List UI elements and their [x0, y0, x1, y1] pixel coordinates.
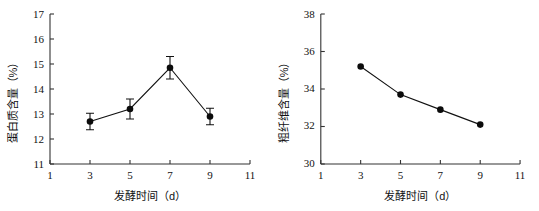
y-tick-label: 32 [304, 119, 315, 131]
y-tick-label: 17 [33, 8, 45, 20]
y-tick-label: 16 [33, 33, 45, 45]
x-axis-title-protein: 发酵时间（d） [114, 189, 186, 202]
x-axis-title-fiber: 发酵时间（d） [384, 189, 456, 202]
x-tick-label: 7 [167, 169, 173, 181]
x-tick-label: 11 [515, 169, 526, 181]
x-tick-label: 1 [47, 169, 53, 181]
y-tick-label: 13 [33, 108, 45, 120]
y-axis-title-fiber: 粗纤维含量（%） [277, 57, 290, 144]
y-tick-label: 34 [304, 82, 315, 94]
x-tick-label: 11 [245, 169, 256, 181]
figure-root: 蛋白质含量（%） 17 16 15 14 13 12 11 [0, 0, 539, 211]
data-point-marker [207, 113, 214, 120]
y-tick-label: 14 [33, 83, 45, 95]
data-point-marker [437, 106, 444, 113]
data-point-marker [357, 63, 364, 70]
y-tick-label: 36 [304, 45, 315, 57]
data-point-marker [167, 64, 174, 71]
x-tick-label: 9 [207, 169, 213, 181]
y-tick-label: 12 [33, 133, 44, 145]
y-tick-label: 38 [304, 8, 315, 20]
data-point-marker [127, 106, 134, 113]
y-tick-label: 15 [33, 58, 45, 70]
data-point-marker [87, 118, 94, 125]
series-line [90, 68, 210, 122]
x-tick-label: 3 [358, 169, 364, 181]
x-tick-label: 5 [127, 169, 133, 181]
data-point-marker [477, 121, 484, 128]
series-group-fiber [357, 63, 483, 128]
fiber-chart-svg: 粗纤维含量（%） 38 36 34 32 30 1 3 [269, 0, 538, 211]
data-point-marker [397, 91, 404, 98]
x-tick-label: 5 [398, 169, 404, 181]
x-tick-label: 1 [318, 169, 323, 181]
x-tick-label: 9 [477, 169, 483, 181]
x-tick-label: 3 [87, 169, 93, 181]
x-tick-label: 7 [438, 169, 444, 181]
protein-chart-svg: 蛋白质含量（%） 17 16 15 14 13 12 11 [0, 0, 269, 211]
series-group-protein [86, 57, 214, 130]
series-line [361, 67, 481, 125]
chart-panel-fiber: 粗纤维含量（%） 38 36 34 32 30 1 3 [269, 0, 538, 211]
y-axis-title-protein: 蛋白质含量（%） [6, 57, 19, 144]
chart-panel-protein: 蛋白质含量（%） 17 16 15 14 13 12 11 [0, 0, 269, 211]
y-tick-label: 30 [304, 157, 315, 169]
y-tick-label: 11 [33, 158, 44, 170]
